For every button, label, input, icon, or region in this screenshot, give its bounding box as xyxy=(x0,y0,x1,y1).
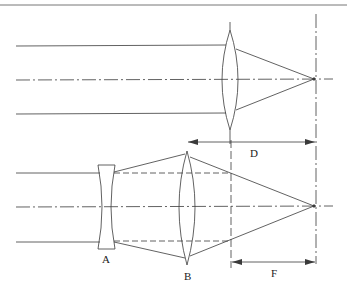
converging-ray-B-upper xyxy=(190,157,314,206)
optics-diagram: D F A B xyxy=(0,0,347,290)
label-D: D xyxy=(250,147,258,159)
converging-ray-lower xyxy=(236,79,314,110)
diverging-ray-lower xyxy=(114,242,185,258)
label-lens-B: B xyxy=(184,270,191,282)
ray-top-upper xyxy=(16,45,226,46)
single-lens-system xyxy=(16,14,333,264)
converging-ray-upper xyxy=(236,49,314,79)
convex-lens-B xyxy=(179,151,195,265)
optical-axis-bottom xyxy=(16,206,333,207)
dimension-D: D xyxy=(188,142,315,159)
diverging-ray-upper xyxy=(114,154,185,172)
two-lens-system xyxy=(16,140,333,268)
focal-point-bottom xyxy=(313,205,315,207)
label-lens-A: A xyxy=(102,253,110,265)
ray-top-lower xyxy=(16,113,226,114)
label-F: F xyxy=(271,267,277,279)
focal-point-top xyxy=(313,78,315,80)
converging-ray-B-lower xyxy=(190,206,314,256)
dimension-F: F xyxy=(232,262,315,279)
optical-axis-top xyxy=(16,79,333,80)
